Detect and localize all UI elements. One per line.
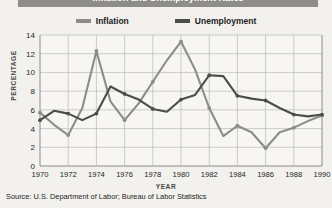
x-tick-label: 1988 (285, 170, 302, 179)
x-tick-label: 1984 (229, 170, 246, 179)
x-tick-label: 1970 (32, 170, 49, 179)
x-tick-label: 1974 (88, 170, 105, 179)
data-point-unemployment (66, 112, 70, 116)
data-point-unemployment (38, 118, 42, 122)
data-point-unemployment (207, 73, 211, 77)
data-point-unemployment (320, 113, 324, 117)
data-point-unemployment (95, 112, 99, 116)
plot-area: 0246810121419701972197419761978198019821… (0, 0, 332, 208)
data-point-unemployment (151, 107, 155, 111)
x-tick-label: 1990 (314, 170, 331, 179)
data-point-unemployment (292, 113, 296, 117)
source-note: Source: U.S. Department of Labor; Bureau… (6, 192, 206, 201)
data-point-inflation (236, 124, 240, 128)
data-point-inflation (179, 40, 183, 44)
x-tick-label: 1978 (144, 170, 161, 179)
data-point-inflation (292, 126, 296, 130)
data-point-unemployment (264, 99, 268, 103)
chart-figure: Inflation and Unemployment Rates Inflati… (0, 0, 332, 208)
x-tick-label: 1972 (60, 170, 77, 179)
data-point-inflation (123, 118, 127, 122)
data-point-inflation (66, 133, 70, 137)
data-point-unemployment (236, 94, 240, 98)
data-point-unemployment (123, 92, 127, 96)
y-tick-label: 4 (31, 125, 36, 134)
y-tick-label: 6 (31, 106, 36, 115)
line-chart-svg: 0246810121419701972197419761978198019821… (0, 0, 332, 208)
y-tick-label: 8 (31, 87, 36, 96)
data-point-inflation (264, 146, 268, 150)
y-tick-label: 2 (31, 143, 36, 152)
data-point-inflation (38, 111, 42, 115)
x-tick-label: 1986 (257, 170, 274, 179)
data-point-inflation (95, 49, 99, 53)
data-point-inflation (207, 106, 211, 110)
x-tick-label: 1980 (173, 170, 190, 179)
y-tick-label: 10 (26, 68, 35, 77)
x-tick-label: 1976 (116, 170, 133, 179)
data-point-unemployment (179, 98, 183, 102)
data-point-inflation (151, 80, 155, 84)
y-tick-label: 14 (26, 31, 35, 40)
y-tick-label: 12 (26, 50, 35, 59)
x-tick-label: 1982 (201, 170, 218, 179)
